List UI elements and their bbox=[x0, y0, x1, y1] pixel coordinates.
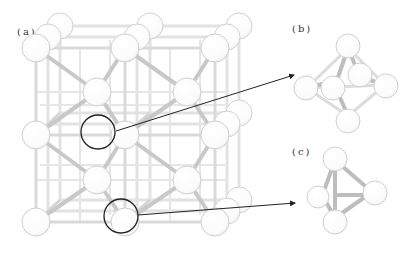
octahedral-site bbox=[294, 34, 398, 133]
tetrahedral-site bbox=[307, 147, 387, 234]
crystal-structure-diagram bbox=[0, 0, 406, 253]
